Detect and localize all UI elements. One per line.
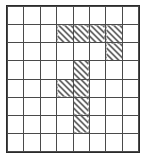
grid-cell-7-6[interactable] [106,133,122,151]
grid-cell-7-4[interactable] [73,133,89,151]
grid-cell-1-3[interactable] [57,25,73,43]
grid-cell-7-5[interactable] [89,133,105,151]
grid-row [8,7,139,25]
grid-cell-2-1[interactable] [24,43,40,61]
grid-frame [6,5,140,153]
grid-cell-1-0[interactable] [8,25,24,43]
grid-row [8,79,139,97]
grid-cell-1-4[interactable] [73,25,89,43]
grid-cell-7-0[interactable] [8,133,24,151]
grid-cell-5-1[interactable] [24,97,40,115]
grid-cell-0-7[interactable] [122,7,138,25]
grid-cell-4-3[interactable] [57,79,73,97]
grid-cell-1-7[interactable] [122,25,138,43]
grid-cell-3-0[interactable] [8,61,24,79]
grid-cell-0-0[interactable] [8,7,24,25]
grid-row [8,61,139,79]
grid-cell-6-5[interactable] [89,115,105,133]
grid-cell-4-6[interactable] [106,79,122,97]
grid-cell-0-6[interactable] [106,7,122,25]
grid-cell-1-5[interactable] [89,25,105,43]
grid-cell-0-3[interactable] [57,7,73,25]
grid-cell-5-3[interactable] [57,97,73,115]
grid-cell-7-1[interactable] [24,133,40,151]
grid-cell-2-6[interactable] [106,43,122,61]
grid-cell-0-1[interactable] [24,7,40,25]
grid-cell-6-4[interactable] [73,115,89,133]
grid-cell-4-4[interactable] [73,79,89,97]
grid-cell-3-2[interactable] [40,61,56,79]
grid-row [8,97,139,115]
grid-cell-2-5[interactable] [89,43,105,61]
grid-cell-3-3[interactable] [57,61,73,79]
grid-cell-3-1[interactable] [24,61,40,79]
grid-cell-5-7[interactable] [122,97,138,115]
grid-cell-2-0[interactable] [8,43,24,61]
grid-cell-3-7[interactable] [122,61,138,79]
grid-cell-4-1[interactable] [24,79,40,97]
grid-cell-7-3[interactable] [57,133,73,151]
grid-cell-2-3[interactable] [57,43,73,61]
grid-figure [0,0,146,158]
grid-row [8,115,139,133]
grid-cell-2-2[interactable] [40,43,56,61]
grid-cell-5-6[interactable] [106,97,122,115]
grid-cell-6-3[interactable] [57,115,73,133]
grid-cell-4-2[interactable] [40,79,56,97]
grid-cell-4-0[interactable] [8,79,24,97]
grid-cell-6-6[interactable] [106,115,122,133]
grid-cell-4-5[interactable] [89,79,105,97]
grid-cell-0-4[interactable] [73,7,89,25]
grid-row [8,25,139,43]
grid-cell-6-1[interactable] [24,115,40,133]
grid-cell-6-2[interactable] [40,115,56,133]
grid-cell-5-5[interactable] [89,97,105,115]
grid-cell-6-0[interactable] [8,115,24,133]
grid-cell-5-4[interactable] [73,97,89,115]
grid-row [8,133,139,151]
grid-cell-1-6[interactable] [106,25,122,43]
grid-cell-1-2[interactable] [40,25,56,43]
grid-cell-7-2[interactable] [40,133,56,151]
grid-cell-7-7[interactable] [122,133,138,151]
grid-cell-3-6[interactable] [106,61,122,79]
grid-cell-0-2[interactable] [40,7,56,25]
grid-cell-5-2[interactable] [40,97,56,115]
grid-cell-2-4[interactable] [73,43,89,61]
grid-cell-1-1[interactable] [24,25,40,43]
grid-cell-4-7[interactable] [122,79,138,97]
grid-cell-0-5[interactable] [89,7,105,25]
grid-table [7,6,139,152]
grid-row [8,43,139,61]
grid-cell-5-0[interactable] [8,97,24,115]
grid-body [8,7,139,152]
grid-cell-3-5[interactable] [89,61,105,79]
grid-cell-3-4[interactable] [73,61,89,79]
grid-cell-2-7[interactable] [122,43,138,61]
grid-cell-6-7[interactable] [122,115,138,133]
